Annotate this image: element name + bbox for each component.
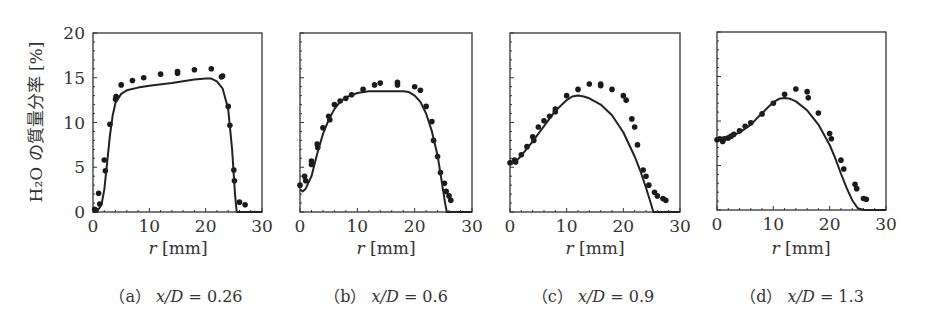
measured-point [141,75,147,81]
caption-prefix: （b） [324,287,366,306]
measured-point [242,202,248,208]
measured-point [663,198,669,204]
measured-point [854,186,860,192]
caption-prefix: （a） [109,287,151,306]
figure-canvas: 010203005101520010203001020300102030 [0,0,928,323]
x-tick-label: 20 [613,216,635,236]
measured-point [192,67,198,73]
caption-prefix: （c） [532,287,573,306]
measured-point [805,95,811,101]
x-var: r [356,238,364,258]
measured-point [372,82,378,88]
measured-point [646,182,652,188]
x-axis-label-d: r [mm] [771,238,830,258]
x-axis-label-b: r [mm] [356,238,415,258]
measured-point [609,87,615,93]
measured-point [829,136,835,142]
measured-point [297,182,303,188]
measured-point [158,71,164,77]
measured-point [175,70,181,76]
x-tick-label: 30 [875,214,897,234]
caption-value: = 0.9 [610,287,654,306]
x-tick-label: 30 [669,216,691,236]
measured-point [598,83,604,89]
measured-point [412,84,418,90]
y-tick-label: 15 [63,68,85,88]
measured-point [118,82,124,88]
x-unit: [mm] [785,238,831,258]
caption-b: （b） x/D = 0.6 [324,283,448,307]
panel-a: 010203005101520 [63,23,272,236]
y-tick-label: 5 [74,157,85,177]
x-axis-label-c: r [mm] [565,238,624,258]
measured-point [395,82,401,88]
measured-point [838,157,844,163]
x-tick-label: 20 [195,216,217,236]
measured-point [863,197,869,203]
caption-value: = 0.26 [188,287,242,306]
measured-point [587,81,593,87]
x-tick-label: 30 [251,216,273,236]
measured-point [536,124,542,130]
plot-frame [717,32,886,210]
x-unit: [mm] [162,238,208,258]
measured-point [377,80,383,86]
measured-point [564,93,570,99]
measured-point [804,89,810,95]
caption-var: x/D [788,287,815,306]
caption-value: = 0.6 [404,287,448,306]
measured-point [418,87,424,93]
measured-point [632,124,638,130]
caption-var: x/D [578,287,605,306]
measured-point [827,131,833,137]
measured-point [655,193,661,199]
plot-frame [93,33,262,212]
plot-frame [510,33,680,212]
x-tick-label: 10 [139,216,161,236]
x-tick-label: 20 [404,216,426,236]
x-tick-label: 30 [461,216,483,236]
measured-point [130,78,136,84]
computed-line [717,98,886,210]
caption-a: （a） x/D = 0.26 [109,283,242,307]
measured-point [841,166,847,172]
x-tick-label: 0 [712,214,723,234]
caption-var: x/D [156,287,183,306]
x-tick-label: 10 [347,216,369,236]
panel-c: 0102030 [505,33,691,236]
measured-point [635,142,641,148]
measured-point [237,199,243,205]
x-tick-label: 10 [556,216,578,236]
y-tick-label: 0 [74,202,85,222]
y-axis-label: H₂O の質量分率 [%] [22,42,47,203]
x-unit: [mm] [579,238,625,258]
measured-point [643,173,649,179]
x-unit: [mm] [370,238,416,258]
measured-point [793,86,799,92]
measured-point [629,116,635,122]
x-var: r [565,238,573,258]
measured-point [782,92,788,98]
x-tick-label: 10 [763,214,785,234]
measured-point [209,66,215,72]
measured-point [575,87,581,93]
caption-prefix: （d） [740,287,782,306]
measured-point [816,110,822,116]
measured-point [448,198,454,204]
y-tick-label: 20 [63,23,85,43]
y-tick-label: 10 [63,113,85,133]
caption-var: x/D [372,287,399,306]
caption-value: = 1.3 [820,287,864,306]
x-tick-label: 0 [505,216,516,236]
caption-d: （d） x/D = 1.3 [740,283,864,307]
computed-line [93,79,262,212]
measured-point [623,97,629,103]
measured-point [219,74,225,80]
panel-b: 0102030 [295,33,483,236]
caption-c: （c） x/D = 0.9 [532,283,654,307]
x-var: r [148,238,156,258]
panel-d: 0102030 [712,32,897,234]
x-tick-label: 0 [88,216,99,236]
x-axis-label-a: r [mm] [148,238,207,258]
x-var: r [771,238,779,258]
